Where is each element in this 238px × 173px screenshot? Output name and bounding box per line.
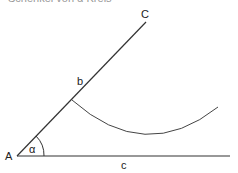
label-vertex-c: C [141, 9, 149, 20]
angle-alpha-arc [36, 136, 44, 156]
label-side-c: c [121, 160, 127, 171]
triangle-diagram [0, 0, 238, 173]
circle-arc [72, 100, 218, 134]
label-vertex-a: A [5, 151, 12, 162]
label-angle-alpha: α [29, 144, 35, 155]
label-side-b: b [77, 76, 83, 87]
